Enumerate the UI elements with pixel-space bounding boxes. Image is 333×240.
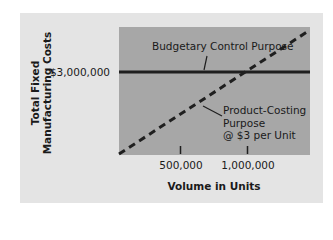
y-tick-label-3000000: $3,000,000 — [50, 66, 110, 78]
product-costing-annotation: Product-Costing Purpose @ $3 per Unit — [223, 104, 306, 142]
product-costing-annotation-line-2: Purpose — [223, 117, 306, 130]
x-tick-label-500000: 500,000 — [159, 159, 202, 171]
x-axis-label: Volume in Units — [167, 180, 260, 192]
y-axis-label-line-1: Total Fixed — [29, 32, 41, 155]
budgetary-control-annotation: Budgetary Control Purpose — [152, 40, 294, 53]
y-axis-label-line-2: Manufacturing Costs — [41, 32, 53, 155]
x-tick-label-1000000: 1,000,000 — [221, 159, 274, 171]
product-costing-annotation-line-1: Product-Costing — [223, 104, 306, 117]
product-costing-annotation-line-3: @ $3 per Unit — [223, 129, 306, 142]
